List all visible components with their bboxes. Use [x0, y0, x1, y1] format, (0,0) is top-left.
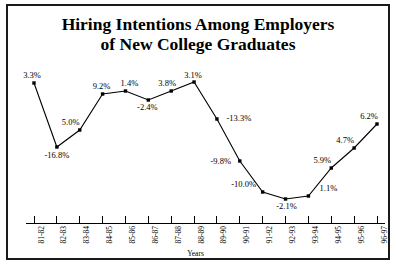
- x-axis: [26, 216, 385, 223]
- data-point-marker: [238, 159, 241, 162]
- x-axis-tick-label: 88-89: [198, 226, 206, 244]
- data-point-label: 3.8%: [158, 79, 176, 88]
- data-point-label: 3.1%: [184, 71, 202, 80]
- x-axis-tick-label: 82-83: [60, 226, 68, 244]
- data-point-label: -2.4%: [137, 103, 158, 112]
- x-axis-tick-label: 87-88: [175, 226, 183, 244]
- data-point-marker: [101, 92, 104, 95]
- x-axis-tick-label: 93-94: [312, 226, 320, 244]
- x-axis-title: Years: [187, 250, 204, 258]
- x-axis-tick-label: 81-82: [38, 226, 46, 244]
- x-axis-tick-label: 89-90: [220, 226, 228, 244]
- data-point-label: 1.1%: [320, 184, 338, 193]
- data-point-marker: [124, 89, 127, 92]
- data-point-marker: [330, 166, 333, 169]
- data-point-label: 1.4%: [121, 79, 139, 88]
- data-point-marker: [307, 194, 310, 197]
- x-axis-tick-label: 95-96: [358, 226, 366, 244]
- x-axis-tick-label: 84-85: [106, 226, 114, 244]
- data-point-marker: [192, 80, 195, 83]
- x-axis-tick-label: 83-84: [83, 226, 91, 244]
- x-axis-tick-label: 94-95: [335, 226, 343, 244]
- data-point-label: 5.9%: [313, 156, 331, 165]
- data-point-marker: [261, 190, 264, 193]
- data-point-label: 3.3%: [23, 71, 41, 80]
- data-point-marker: [55, 145, 58, 148]
- data-point-label: -10.0%: [231, 180, 256, 189]
- data-point-label: 9.2%: [93, 82, 111, 91]
- x-axis-tick-label: 85-86: [129, 226, 137, 244]
- data-point-marker: [170, 89, 173, 92]
- data-point-marker: [215, 117, 218, 120]
- x-axis-tick-label: 86-87: [152, 226, 160, 244]
- data-point-marker: [78, 128, 81, 131]
- data-point-label: 5.0%: [62, 118, 80, 127]
- chart-title: Hiring Intentions Among Employers of New…: [8, 14, 388, 54]
- series-line: [34, 82, 377, 199]
- data-point-label: -13.3%: [227, 114, 252, 123]
- data-point-marker: [32, 81, 35, 84]
- chart-title-line-1: Hiring Intentions Among Employers: [8, 14, 388, 34]
- data-point-label: -2.1%: [276, 202, 297, 211]
- data-point-marker: [375, 122, 378, 125]
- x-axis-tick-label: 90-91: [243, 226, 251, 244]
- data-point-marker: [352, 146, 355, 149]
- x-axis-tick-label: 91-92: [266, 226, 274, 244]
- data-point-label: 6.2%: [360, 112, 378, 121]
- data-point-label: 4.7%: [336, 136, 354, 145]
- chart-frame: Hiring Intentions Among Employers of New…: [6, 4, 390, 260]
- x-axis-tick-label: 96-97: [381, 226, 389, 244]
- x-axis-tick-label: 92-93: [289, 226, 297, 244]
- data-point-label: -9.8%: [211, 157, 232, 166]
- data-point-label: -16.8%: [44, 151, 69, 160]
- chart-title-line-2: of New College Graduates: [8, 34, 388, 54]
